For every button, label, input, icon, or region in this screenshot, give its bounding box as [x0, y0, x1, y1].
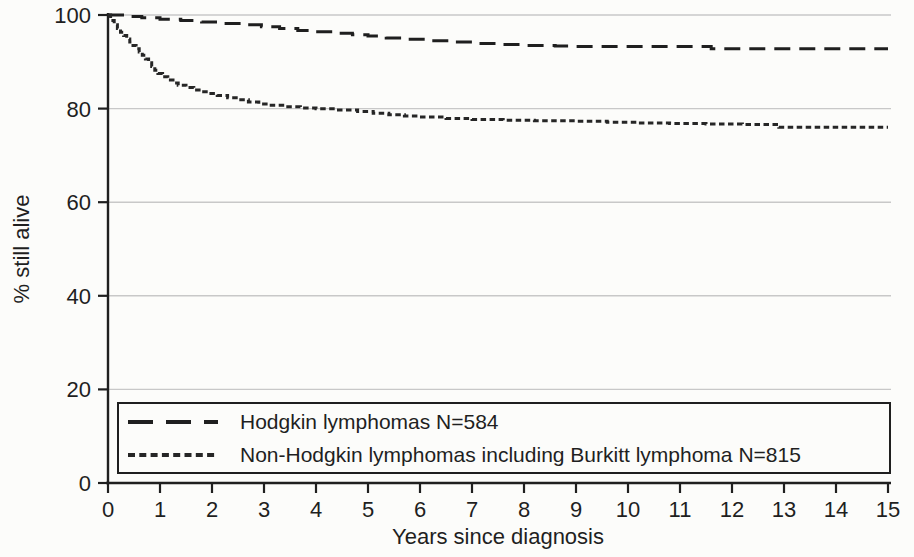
legend-label-non-hodgkin: Non-Hodgkin lymphomas including Burkitt …: [240, 443, 801, 467]
x-tick-label: 15: [876, 497, 900, 522]
y-tick-label: 60: [67, 190, 91, 215]
x-tick-label: 8: [518, 497, 530, 522]
y-tick-label: 0: [79, 471, 91, 496]
x-axis-title: Years since diagnosis: [108, 524, 888, 550]
x-tick-label: 2: [206, 497, 218, 522]
x-tick-label: 3: [258, 497, 270, 522]
legend-item-non-hodgkin: Non-Hodgkin lymphomas including Burkitt …: [127, 443, 889, 467]
x-tick-label: 11: [669, 497, 692, 522]
x-tick-label: 10: [616, 497, 640, 522]
x-tick-label: 1: [154, 497, 166, 522]
y-tick-label: 100: [54, 3, 91, 28]
x-tick-label: 5: [362, 497, 374, 522]
short-dash-line-icon: [127, 450, 219, 460]
y-tick-label: 80: [67, 97, 91, 122]
y-tick-label: 40: [67, 284, 91, 309]
x-tick-label: 4: [310, 497, 322, 522]
survival-chart-figure: 0204060801000123456789101112131415 % sti…: [0, 0, 914, 557]
x-tick-label: 7: [466, 497, 478, 522]
legend-item-hodgkin: Hodgkin lymphomas N=584: [127, 410, 889, 434]
x-tick-label: 12: [720, 497, 744, 522]
legend-box: Hodgkin lymphomas N=584 Non-Hodgkin lymp…: [117, 402, 891, 474]
x-tick-label: 6: [414, 497, 426, 522]
survival-curve-non-hodgkin: [108, 15, 888, 127]
x-tick-label: 9: [570, 497, 582, 522]
y-axis-title: % still alive: [9, 195, 35, 304]
x-tick-label: 0: [102, 497, 114, 522]
survival-curve-hodgkin: [108, 15, 888, 49]
long-dash-line-icon: [127, 417, 219, 427]
y-tick-label: 20: [67, 377, 91, 402]
legend-label-hodgkin: Hodgkin lymphomas N=584: [240, 410, 499, 434]
x-tick-label: 14: [824, 497, 848, 522]
x-tick-label: 13: [772, 497, 796, 522]
